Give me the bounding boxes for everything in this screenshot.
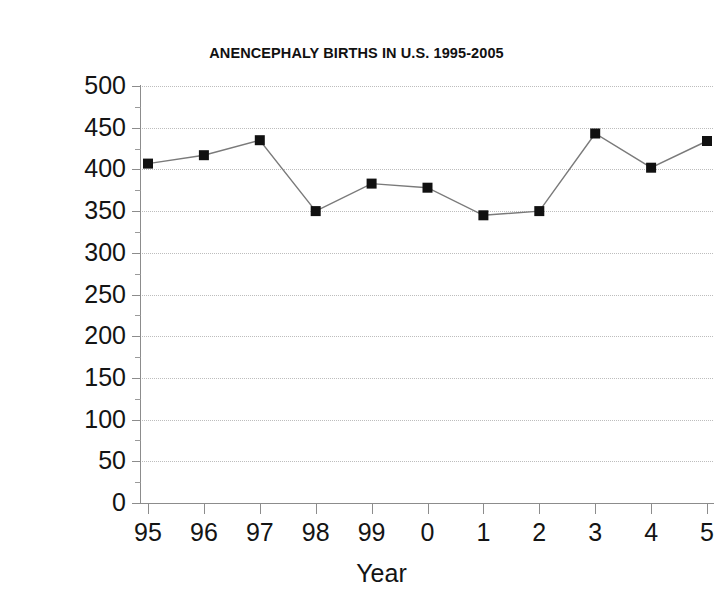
y-axis-minor-tick (135, 107, 141, 108)
x-axis-title: Year (40, 559, 718, 588)
x-axis-tick-label: 2 (509, 518, 569, 546)
x-axis-tick (428, 503, 429, 514)
y-axis-tick (132, 253, 141, 254)
anencephaly-births-line-chart: ANENCEPHALY BIRTHS IN U.S. 1995-2005 500… (40, 16, 718, 596)
x-axis-tick-label: 99 (342, 518, 402, 546)
x-axis-tick (651, 503, 652, 514)
y-axis-minor-tick (135, 399, 141, 400)
plot-area (140, 86, 713, 503)
y-axis-tick (132, 378, 141, 379)
y-axis-tick-label: 450 (54, 115, 126, 140)
scan-artifact-text (42, 0, 302, 5)
x-axis-tick (260, 503, 261, 514)
y-axis-tick (132, 211, 141, 212)
x-axis-tick (372, 503, 373, 514)
gridline (140, 461, 713, 462)
y-axis-tick (132, 336, 141, 337)
y-axis-tick-label: 350 (54, 198, 126, 223)
gridline (140, 336, 713, 337)
x-axis-tick-label: 95 (118, 518, 178, 546)
x-axis-tick (148, 503, 149, 514)
x-axis-tick (707, 503, 708, 514)
x-axis-tick-label: 0 (398, 518, 458, 546)
x-axis-tick-label: 5 (677, 518, 718, 546)
x-axis-title-text: Year (356, 559, 407, 587)
y-axis-tick (132, 295, 141, 296)
x-axis-tick-label: 96 (174, 518, 234, 546)
y-axis-tick-label: 250 (54, 282, 126, 307)
gridline (140, 378, 713, 379)
y-axis-minor-tick (135, 232, 141, 233)
x-axis-tick (204, 503, 205, 514)
y-axis-tick-label: 50 (54, 448, 126, 473)
y-axis-tick (132, 420, 141, 421)
x-axis-line (139, 503, 714, 504)
x-axis-tick-label: 4 (621, 518, 681, 546)
x-axis-tick (316, 503, 317, 514)
gridline (140, 86, 713, 87)
y-axis-minor-tick (135, 482, 141, 483)
y-axis-tick (132, 86, 141, 87)
gridline (140, 211, 713, 212)
x-axis-tick-label: 1 (453, 518, 513, 546)
y-axis-minor-tick (135, 190, 141, 191)
y-axis-tick-label: 300 (54, 240, 126, 265)
gridline (140, 253, 713, 254)
x-axis-tick (595, 503, 596, 514)
y-axis-tick (132, 128, 141, 129)
y-axis-minor-tick (135, 440, 141, 441)
y-axis-tick-label: 150 (54, 365, 126, 390)
gridline (140, 128, 713, 129)
y-axis-minor-tick (135, 357, 141, 358)
y-axis-tick-label: 500 (54, 73, 126, 98)
x-axis-tick (483, 503, 484, 514)
gridline (140, 420, 713, 421)
x-axis-tick-label: 3 (565, 518, 625, 546)
y-axis-tick (132, 461, 141, 462)
gridline (140, 169, 713, 170)
y-axis-tick (132, 503, 141, 504)
y-axis-tick (132, 169, 141, 170)
x-axis-tick-label: 97 (230, 518, 290, 546)
y-axis-tick-label: 100 (54, 407, 126, 432)
y-axis-minor-tick (135, 149, 141, 150)
y-axis-tick-label: 0 (54, 490, 126, 515)
y-axis-minor-tick (135, 274, 141, 275)
y-axis-tick-label: 400 (54, 156, 126, 181)
plot-region: 500450400350300250200150100500 959697989… (40, 16, 718, 596)
y-axis-tick-label: 200 (54, 323, 126, 348)
x-axis-tick-label: 98 (286, 518, 346, 546)
x-axis-tick (539, 503, 540, 514)
y-axis-tick-labels: 500450400350300250200150100500 (48, 16, 126, 596)
y-axis-minor-tick (135, 315, 141, 316)
gridline (140, 295, 713, 296)
